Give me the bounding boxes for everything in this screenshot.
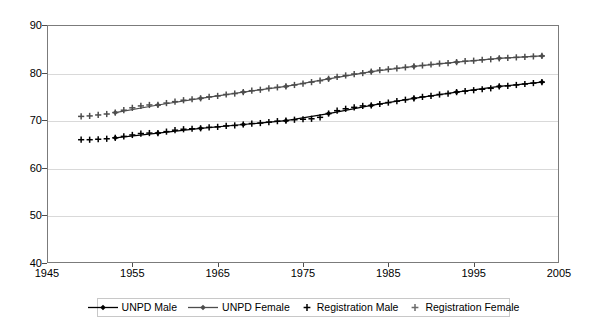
data-point-marker [113,135,118,140]
data-point-marker [155,102,160,107]
data-point-marker [198,126,203,131]
data-point-marker [326,76,331,81]
plus-marker [360,103,366,109]
plus-marker [172,127,178,133]
plus-marker [129,132,135,138]
data-point-marker [454,60,459,65]
data-point-marker [283,118,288,123]
x-tick-mark [388,263,389,267]
plus-marker [87,113,93,119]
x-tick-mark [132,263,133,267]
series-registration-female [78,53,545,120]
series-unpd-female [113,53,545,115]
y-tick-label: 80 [8,68,42,79]
data-point-marker [198,96,203,101]
y-tick-mark [42,73,47,74]
x-tick-mark [474,263,475,267]
chart-screenshot: 405060708090 194519551965197519851995200… [0,0,607,331]
plus-marker [95,136,101,142]
data-point-marker [539,53,544,58]
series-unpd-male [113,80,545,141]
line-diamond-marker [88,302,118,313]
plus-marker [409,302,421,313]
y-tick-mark [42,263,47,264]
plus-marker [303,304,310,311]
data-point-marker [241,122,246,127]
data-point-marker [497,56,502,61]
y-tick-mark [42,25,47,26]
data-point-marker [497,84,502,89]
plus-marker [412,304,419,311]
plus-marker [78,113,84,119]
legend-item-label: Registration Female [425,302,519,313]
data-point-marker [411,64,416,69]
x-tick-label: 1975 [281,268,325,279]
y-tick-label: 70 [8,115,42,126]
data-point-marker [369,69,374,74]
x-tick-mark [303,263,304,267]
x-tick-label: 1995 [452,268,496,279]
x-tick-label: 1985 [366,268,410,279]
legend-item-label: UNPD Male [122,302,177,313]
plus-marker [180,126,186,132]
series-line [115,56,542,113]
x-axis: 1945195519651975198519952005 [0,268,607,284]
data-point-marker [283,84,288,89]
series-layer [47,25,559,263]
plus-marker [146,130,152,136]
plus-marker [104,111,110,117]
y-tick-mark [42,168,47,169]
chart-legend: UNPD MaleUNPD FemaleRegistration MaleReg… [97,298,510,317]
y-tick-label: 90 [8,20,42,31]
y-tick-mark [42,120,47,121]
data-point-marker [200,305,206,311]
x-tick-mark [218,263,219,267]
data-point-marker [411,96,416,101]
x-tick-label: 1945 [25,268,69,279]
data-point-marker [326,111,331,116]
legend-item-label: Registration Male [317,302,399,313]
series-line [115,82,542,138]
data-point-marker [369,103,374,108]
data-point-marker [100,305,106,311]
data-point-marker [155,130,160,135]
legend-item[interactable]: UNPD Female [188,302,290,313]
plus-marker [104,136,110,142]
y-tick-label: 50 [8,210,42,221]
data-point-marker [113,110,118,115]
line-diamond-marker [188,302,218,313]
legend-item[interactable]: Registration Female [409,302,519,313]
legend-item-label: UNPD Female [222,302,290,313]
x-tick-label: 1965 [196,268,240,279]
series-registration-male [78,79,545,143]
plus-marker [95,112,101,118]
plus-marker [78,137,84,143]
plus-marker [301,302,313,313]
plus-marker [87,137,93,143]
x-tick-label: 1955 [110,268,154,279]
y-tick-label: 60 [8,163,42,174]
legend-item[interactable]: Registration Male [301,302,399,313]
data-point-marker [454,90,459,95]
data-point-marker [241,90,246,95]
data-point-marker [539,80,544,85]
y-tick-mark [42,215,47,216]
x-tick-label: 2005 [537,268,581,279]
legend-item[interactable]: UNPD Male [88,302,177,313]
